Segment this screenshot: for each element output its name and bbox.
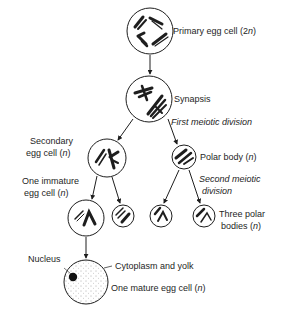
chromosome-icon (176, 150, 193, 164)
arrow-secondary-to-immature (92, 176, 97, 199)
label-polar-body: Polar body (n) (200, 152, 257, 163)
mature-egg-cell (64, 260, 112, 304)
label-immature-line2: egg cell (n) (24, 188, 69, 199)
label-mature-egg-cell: One mature egg cell (n) (111, 283, 206, 294)
polar-body-4 (193, 205, 215, 227)
label-bodies: bodies (n) (221, 221, 261, 232)
polar-body-2 (112, 205, 134, 227)
label-secondary-line2: egg cell (n) (26, 148, 71, 159)
chromosome-pairs-icon (135, 86, 166, 118)
label-synapsis: Synapsis (174, 94, 211, 105)
arrow-secondary-to-polar2 (112, 177, 120, 203)
label-first-meiotic-division: First meiotic division (171, 117, 252, 128)
label-cytoplasm: Cytoplasm and yolk (115, 261, 194, 272)
synapsis-cell (126, 76, 172, 122)
label-secondary-line1: Secondary (30, 136, 73, 147)
arrow-synapsis-to-secondary (118, 119, 133, 140)
label-immature-line1: One immature (22, 176, 79, 187)
immature-egg-cell (68, 200, 104, 236)
label-second-meiotic: Second meiotic (199, 174, 261, 185)
arrow-polar-to-polar3 (164, 170, 179, 203)
chromosome-icon (96, 150, 118, 168)
primary-egg-cell (127, 8, 173, 54)
nucleus (69, 273, 77, 281)
label-division: division (202, 186, 232, 197)
cytoplasm-leader (104, 266, 112, 268)
label-nucleus: Nucleus (28, 254, 61, 265)
polar-body-3 (150, 205, 172, 227)
first-polar-body (172, 145, 196, 169)
secondary-egg-cell (88, 139, 126, 177)
label-three-polar: Three polar (219, 209, 265, 220)
label-primary-egg-cell: Primary egg cell (2n) (173, 26, 256, 37)
chromosome-icon (135, 17, 168, 46)
chromosome-icon (75, 211, 95, 225)
